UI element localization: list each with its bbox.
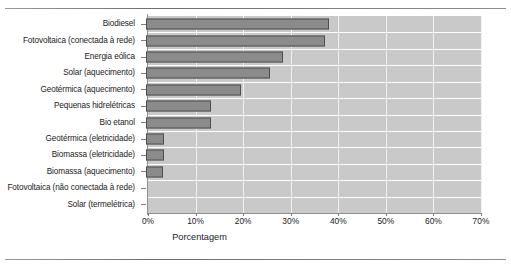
x-tick-label: 40% <box>330 216 347 226</box>
category-label: Bio etanol <box>0 118 141 128</box>
bar-cell <box>146 49 481 65</box>
bottom-divider-rule <box>5 259 506 260</box>
category-label: Biodiesel <box>0 19 141 29</box>
bar-row: Geotérmica (aquecimento) <box>0 82 481 98</box>
x-axis-line <box>147 213 482 214</box>
bar-cell <box>146 114 481 130</box>
bar <box>146 117 211 128</box>
bar <box>146 134 164 145</box>
bar-cell <box>146 16 481 32</box>
bar-cell <box>146 82 481 98</box>
x-tick-label: 60% <box>425 216 442 226</box>
category-label: Geotérmica (eletricidade) <box>0 134 141 144</box>
category-label: Energia eólica <box>0 52 141 62</box>
bar-cell <box>146 32 481 48</box>
bar-row: Energia eólica <box>0 49 481 65</box>
x-axis-title: Porcentagem <box>0 232 511 242</box>
bar <box>146 35 325 46</box>
bar-row: Fotovoltaica (conectada à rede) <box>0 32 481 48</box>
x-tick-label: 70% <box>473 216 490 226</box>
bar-row: Solar (aquecimento) <box>0 65 481 81</box>
figure-container: BiodieselFotovoltaica (conectada à rede)… <box>0 0 511 269</box>
category-label: Pequenas hidrelétricas <box>0 101 141 111</box>
bar-row: Biodiesel <box>0 16 481 32</box>
bar <box>146 150 164 161</box>
bar-cell <box>146 180 481 196</box>
top-divider-rule <box>5 8 506 9</box>
bar <box>146 101 211 112</box>
bar <box>146 166 163 177</box>
x-tick-label: 50% <box>377 216 394 226</box>
category-label: Fotovoltaica (não conectada à rede) <box>0 183 141 193</box>
x-tick-label: 0% <box>142 216 154 226</box>
x-tick-label: 30% <box>282 216 299 226</box>
bar-cell <box>146 196 481 212</box>
bar-row: Pequenas hidrelétricas <box>0 98 481 114</box>
x-tick-labels: 0%10%20%30%40%50%60%70% <box>0 216 511 230</box>
x-axis-title-text: Porcentagem <box>172 232 227 242</box>
category-label: Solar (aquecimento) <box>0 68 141 78</box>
bar-cell <box>146 164 481 180</box>
bar <box>146 19 329 30</box>
bar <box>146 84 241 95</box>
bar-row: Fotovoltaica (não conectada à rede) <box>0 180 481 196</box>
x-tick-label: 20% <box>235 216 252 226</box>
category-label: Fotovoltaica (conectada à rede) <box>0 36 141 46</box>
bar-rows: BiodieselFotovoltaica (conectada à rede)… <box>0 16 481 213</box>
category-label: Geotérmica (aquecimento) <box>0 85 141 95</box>
x-tick-label: 10% <box>187 216 204 226</box>
bar-cell <box>146 147 481 163</box>
bar <box>146 68 270 79</box>
bar-row: Geotérmica (eletricidade) <box>0 131 481 147</box>
category-label: Biomassa (eletricidade) <box>0 150 141 160</box>
bar-row: Solar (termelétrica) <box>0 196 481 212</box>
gridline-vertical <box>481 16 482 213</box>
bar-cell <box>146 65 481 81</box>
category-label: Solar (termelétrica) <box>0 200 141 210</box>
bar <box>146 52 283 63</box>
bar-cell <box>146 131 481 147</box>
bar-row: Biomassa (aquecimento) <box>0 164 481 180</box>
bar-row: Bio etanol <box>0 114 481 130</box>
bar-cell <box>146 98 481 114</box>
bar-row: Biomassa (eletricidade) <box>0 147 481 163</box>
category-label: Biomassa (aquecimento) <box>0 167 141 177</box>
